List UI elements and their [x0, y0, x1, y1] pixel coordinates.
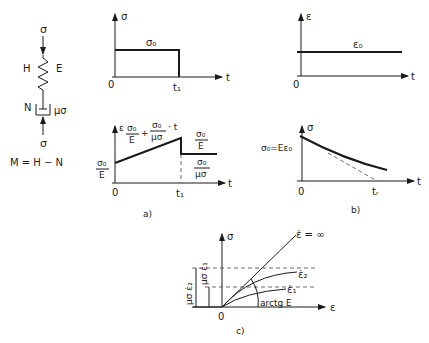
- spring-icon: [38, 55, 48, 98]
- spring-label-h: H: [23, 63, 31, 74]
- x-axis-label: t: [226, 72, 230, 83]
- rate-infinite-label: ε̇ = ∞: [296, 229, 324, 240]
- drop-value-fraction: σ₀ E: [195, 129, 208, 151]
- panel-b-strain-plot: ε t 0 ε₀: [293, 11, 415, 90]
- dim-inner-label: μσ ε̇₁: [199, 262, 209, 285]
- angle-label: arctg E: [260, 298, 292, 308]
- frac-den: E: [129, 135, 135, 145]
- relaxation-curve: [300, 136, 387, 170]
- y-axis-label: σ: [307, 122, 314, 133]
- panel-a-creep-plot: ε t 0 t₁ σ₀ E + σ₀ μσ · t σ₀ E σ₀ E: [96, 120, 232, 219]
- rate-2-label: ε̇₂: [298, 269, 307, 280]
- frac-den: E: [99, 170, 105, 180]
- frac-num: σ₀: [152, 120, 162, 130]
- y-axis-label: ε: [306, 11, 311, 22]
- origin-label: 0: [112, 187, 118, 198]
- frac-num: σ₀: [127, 123, 137, 133]
- frac-num: σ₀: [97, 158, 107, 168]
- y-axis-label: ε: [119, 123, 124, 133]
- panel-a-stress-plot: σ t 0 σ₀ t₁: [108, 11, 230, 93]
- rheology-diagram: σ H E N μσ σ M = H − N σ t 0 σ₀ t₁ ε t 0…: [0, 0, 429, 343]
- t1-label: t₁: [176, 188, 184, 199]
- x-axis-label: t: [417, 176, 421, 187]
- x-axis-label: t: [228, 178, 232, 189]
- caption-c: c): [236, 326, 244, 336]
- start-value-label: σ₀=Eε₀: [261, 143, 292, 153]
- x-axis-label: t: [411, 71, 415, 82]
- dim-outer-label: μσ ε̇₂: [184, 282, 194, 305]
- y-axis-label: σ: [121, 11, 128, 22]
- bottom-stress-label: σ: [40, 137, 47, 150]
- frac-num: σ₀: [197, 157, 207, 167]
- origin-label: 0: [218, 311, 224, 322]
- frac-den: E: [198, 141, 204, 151]
- frac-num: σ₀: [196, 129, 206, 139]
- dashpot-label-mu: μσ: [54, 105, 67, 116]
- plus: +: [141, 128, 149, 138]
- x-axis-label: ε: [330, 302, 335, 313]
- caption-b: b): [351, 205, 360, 215]
- spring-label-e: E: [56, 63, 62, 74]
- t1-label: t₁: [173, 82, 181, 93]
- eps0-label: ε₀: [353, 39, 362, 50]
- y-axis-label: σ: [227, 231, 234, 242]
- tangent-dashed-line: [328, 153, 377, 181]
- frac-den: μσ: [151, 132, 163, 142]
- stress-step-line: [115, 50, 179, 77]
- start-value-fraction: σ₀ E: [96, 158, 109, 180]
- dashpot-label-n: N: [24, 102, 31, 113]
- origin-label: 0: [293, 79, 299, 90]
- maxwell-model: σ H E N μσ σ M = H − N: [10, 23, 67, 168]
- caption-a: a): [143, 209, 152, 219]
- times-t: · t: [168, 122, 178, 132]
- model-equation: M = H − N: [10, 157, 63, 168]
- top-stress-label: σ: [40, 23, 47, 36]
- frac-den: μσ: [195, 169, 207, 179]
- origin-label: 0: [298, 186, 304, 197]
- origin-label: 0: [108, 79, 114, 90]
- residual-value-fraction: σ₀ μσ: [194, 157, 210, 179]
- panel-b-relaxation-plot: σ t 0 σ₀=Eε₀ tᵣ b): [261, 122, 421, 215]
- rate-1-label: ε̇₁: [287, 284, 296, 295]
- panel-c-stress-strain-plot: σ ε 0 arctg E ε̇ = ∞ ε̇₂ ε̇₁ μσ ε̇₂ μσ ε…: [184, 229, 335, 336]
- sigma0-label: σ₀: [146, 37, 156, 48]
- tr-label: tᵣ: [372, 186, 379, 197]
